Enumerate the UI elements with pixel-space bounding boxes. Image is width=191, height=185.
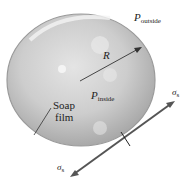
soap-film-label-line1: Soap [53, 100, 75, 111]
soap-film-label-line2: film [55, 112, 73, 123]
sigma-s-bottom-label: σs [57, 163, 64, 174]
p-inside-label: Pinside [91, 90, 114, 103]
sigma-s-top-label: σs [172, 88, 179, 99]
p-outside-label: Poutside [134, 12, 161, 25]
radius-label: R [103, 50, 110, 61]
